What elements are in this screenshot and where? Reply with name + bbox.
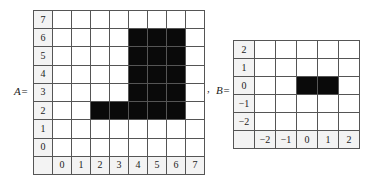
empty-cell bbox=[255, 95, 276, 113]
row-label: −1 bbox=[234, 95, 255, 113]
row-label: 6 bbox=[34, 29, 53, 47]
grid-row: 0 bbox=[34, 138, 205, 156]
row-label: 5 bbox=[34, 47, 53, 65]
column-label: 5 bbox=[148, 156, 167, 174]
column-label: 0 bbox=[53, 156, 72, 174]
empty-cell bbox=[167, 11, 186, 29]
grid-row: 2 bbox=[34, 102, 205, 120]
empty-cell bbox=[91, 65, 110, 83]
column-label-row: −2−1012 bbox=[234, 131, 360, 149]
corner-cell bbox=[34, 156, 53, 174]
empty-cell bbox=[276, 77, 297, 95]
filled-cell bbox=[148, 102, 167, 120]
empty-cell bbox=[255, 59, 276, 77]
column-label: −2 bbox=[255, 131, 276, 149]
empty-cell bbox=[186, 120, 205, 138]
empty-cell bbox=[318, 113, 339, 131]
row-label: −2 bbox=[234, 113, 255, 131]
empty-cell bbox=[148, 120, 167, 138]
empty-cell bbox=[297, 59, 318, 77]
row-label: 1 bbox=[234, 59, 255, 77]
empty-cell bbox=[167, 138, 186, 156]
empty-cell bbox=[110, 29, 129, 47]
empty-cell bbox=[91, 83, 110, 101]
empty-cell bbox=[186, 65, 205, 83]
empty-cell bbox=[297, 95, 318, 113]
empty-cell bbox=[53, 65, 72, 83]
grid-row: 6 bbox=[34, 29, 205, 47]
empty-cell bbox=[255, 113, 276, 131]
filled-cell bbox=[129, 65, 148, 83]
empty-cell bbox=[72, 65, 91, 83]
grid-row: 4 bbox=[34, 65, 205, 83]
filled-cell bbox=[148, 47, 167, 65]
column-label: 3 bbox=[110, 156, 129, 174]
empty-cell bbox=[53, 120, 72, 138]
empty-cell bbox=[129, 11, 148, 29]
empty-cell bbox=[276, 113, 297, 131]
grid-row: 1 bbox=[234, 59, 360, 77]
empty-cell bbox=[186, 29, 205, 47]
grid-row: 1 bbox=[34, 120, 205, 138]
filled-cell bbox=[129, 83, 148, 101]
empty-cell bbox=[53, 47, 72, 65]
empty-cell bbox=[72, 138, 91, 156]
grid-row: 2 bbox=[234, 41, 360, 59]
filled-cell bbox=[297, 77, 318, 95]
filled-cell bbox=[318, 77, 339, 95]
empty-cell bbox=[110, 138, 129, 156]
empty-cell bbox=[186, 102, 205, 120]
grid-row: 7 bbox=[34, 11, 205, 29]
column-label: 4 bbox=[129, 156, 148, 174]
empty-cell bbox=[339, 41, 360, 59]
empty-cell bbox=[148, 138, 167, 156]
empty-cell bbox=[72, 29, 91, 47]
column-label: 1 bbox=[318, 131, 339, 149]
filled-cell bbox=[129, 102, 148, 120]
empty-cell bbox=[339, 77, 360, 95]
row-label: 2 bbox=[234, 41, 255, 59]
filled-cell bbox=[167, 102, 186, 120]
filled-cell bbox=[129, 29, 148, 47]
empty-cell bbox=[318, 95, 339, 113]
separator-comma: , bbox=[207, 82, 210, 94]
row-label: 0 bbox=[234, 77, 255, 95]
empty-cell bbox=[53, 138, 72, 156]
column-label: 0 bbox=[297, 131, 318, 149]
empty-cell bbox=[129, 138, 148, 156]
empty-cell bbox=[110, 11, 129, 29]
row-label: 7 bbox=[34, 11, 53, 29]
empty-cell bbox=[53, 102, 72, 120]
empty-cell bbox=[339, 113, 360, 131]
grid-row: −1 bbox=[234, 95, 360, 113]
filled-cell bbox=[148, 83, 167, 101]
row-label: 3 bbox=[34, 83, 53, 101]
empty-cell bbox=[72, 11, 91, 29]
empty-cell bbox=[186, 11, 205, 29]
matrix-b-label: B= bbox=[216, 84, 230, 96]
empty-cell bbox=[318, 59, 339, 77]
empty-cell bbox=[110, 83, 129, 101]
empty-cell bbox=[91, 29, 110, 47]
matrix-a-grid: 7654321001234567 bbox=[33, 10, 205, 175]
filled-cell bbox=[91, 102, 110, 120]
empty-cell bbox=[255, 77, 276, 95]
column-label: −1 bbox=[276, 131, 297, 149]
empty-cell bbox=[297, 113, 318, 131]
empty-cell bbox=[110, 65, 129, 83]
filled-cell bbox=[167, 83, 186, 101]
empty-cell bbox=[72, 102, 91, 120]
row-label: 4 bbox=[34, 65, 53, 83]
grid-row: −2 bbox=[234, 113, 360, 131]
column-label: 2 bbox=[91, 156, 110, 174]
filled-cell bbox=[167, 65, 186, 83]
empty-cell bbox=[91, 120, 110, 138]
empty-cell bbox=[255, 41, 276, 59]
filled-cell bbox=[129, 47, 148, 65]
empty-cell bbox=[129, 120, 148, 138]
column-label: 7 bbox=[186, 156, 205, 174]
empty-cell bbox=[72, 47, 91, 65]
filled-cell bbox=[167, 29, 186, 47]
corner-cell bbox=[234, 131, 255, 149]
row-label: 0 bbox=[34, 138, 53, 156]
